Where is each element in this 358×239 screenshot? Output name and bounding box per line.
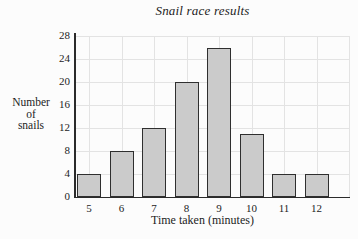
bar (175, 82, 199, 197)
y-tick-label: 4 (46, 167, 70, 179)
bar (142, 128, 166, 197)
bar (110, 151, 134, 197)
x-tick-label: 7 (140, 202, 168, 214)
x-tick-label: 5 (75, 202, 103, 214)
bar (77, 174, 101, 197)
y-axis-line (74, 33, 76, 198)
x-axis-line (74, 197, 350, 199)
v-gridline (349, 36, 350, 197)
y-tick-label: 24 (46, 52, 70, 64)
y-tick-label: 16 (46, 98, 70, 110)
v-gridline (89, 36, 90, 197)
x-tick-label: 10 (238, 202, 266, 214)
bar (207, 48, 231, 198)
y-tick-label: 20 (46, 75, 70, 87)
x-tick-label: 8 (173, 202, 201, 214)
y-tick-label: 28 (46, 29, 70, 41)
bar (305, 174, 329, 197)
v-gridline (317, 36, 318, 197)
y-tick-label: 12 (46, 121, 70, 133)
x-axis-title: Time taken (minutes) (75, 213, 330, 228)
snail-race-bar-chart: Snail race results Number of snails Time… (0, 0, 358, 239)
x-tick-label: 9 (205, 202, 233, 214)
bar (272, 174, 296, 197)
v-gridline (284, 36, 285, 197)
h-gridline (75, 36, 350, 37)
x-tick-label: 6 (108, 202, 136, 214)
x-tick-label: 11 (270, 202, 298, 214)
chart-title: Snail race results (70, 3, 335, 19)
bar (240, 134, 264, 197)
y-tick-label: 0 (46, 190, 70, 202)
y-tick-label: 8 (46, 144, 70, 156)
x-tick-label: 12 (303, 202, 331, 214)
